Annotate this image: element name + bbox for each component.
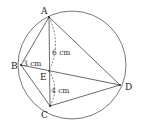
dimension-arc-ae bbox=[49, 17, 56, 71]
label-c: C bbox=[41, 110, 48, 120]
label-b: B bbox=[11, 61, 18, 71]
point-a-dot bbox=[48, 16, 50, 18]
label-e: E bbox=[40, 72, 47, 82]
length-label-be: 3 cm bbox=[23, 59, 41, 68]
label-a: A bbox=[40, 6, 48, 16]
point-c-dot bbox=[49, 105, 51, 107]
length-label-ec: 4 cm bbox=[51, 86, 69, 95]
point-d-dot bbox=[119, 84, 121, 86]
segment-ab bbox=[21, 17, 49, 65]
length-label-ae: 6 cm bbox=[52, 48, 70, 57]
segment-ac bbox=[49, 17, 50, 106]
label-d: D bbox=[125, 82, 132, 92]
point-b-dot bbox=[20, 64, 22, 66]
geometry-diagram: A B E C D 6 cm 3 cm 4 cm bbox=[0, 0, 141, 125]
segment-bd bbox=[21, 65, 120, 85]
point-e-dot bbox=[48, 70, 50, 72]
